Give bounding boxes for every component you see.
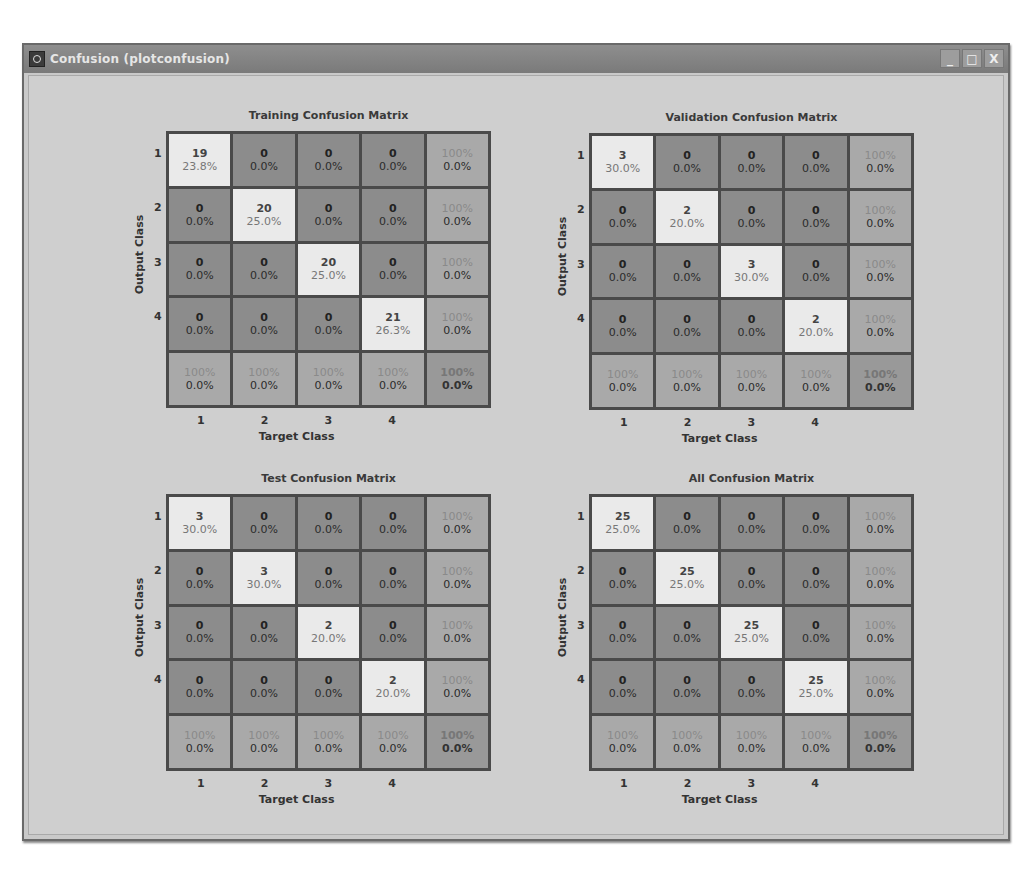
cell-percent: 0.0% xyxy=(186,379,214,392)
cell-percent: 0.0% xyxy=(379,578,407,591)
cell-count: 0 xyxy=(389,147,397,160)
matrix-cell: 00.0% xyxy=(785,497,846,549)
cell-count: 0 xyxy=(812,258,820,271)
matrix-cell: 00.0% xyxy=(298,661,359,713)
minimize-button[interactable]: _ xyxy=(940,49,960,68)
summary-cell: 100%0.0% xyxy=(427,607,488,659)
cell-count: 0 xyxy=(325,510,333,523)
cell-count: 2 xyxy=(812,313,820,326)
cell-percent: 0.0% xyxy=(186,324,214,337)
matrix-cell: 00.0% xyxy=(169,552,230,604)
matrix-cell: 00.0% xyxy=(656,607,717,659)
cell-percent: 0.0% xyxy=(250,523,278,536)
cell-percent: 0.0% xyxy=(186,742,214,755)
cell-percent: 0.0% xyxy=(609,687,637,700)
matlab-figure-icon xyxy=(29,51,45,67)
output-class-tick: 1 xyxy=(154,147,162,160)
cell-percent: 0.0% xyxy=(186,687,214,700)
cell-percent: 0.0% xyxy=(442,742,473,755)
cell-count: 3 xyxy=(196,510,204,523)
cell-percent: 0.0% xyxy=(738,381,766,394)
correct-cell: 2025.0% xyxy=(298,244,359,296)
correct-cell: 2126.3% xyxy=(362,298,423,350)
maximize-button[interactable]: □ xyxy=(962,49,982,68)
overall-accuracy-cell: 100%0.0% xyxy=(427,353,488,405)
summary-cell: 100%0.0% xyxy=(427,298,488,350)
cell-percent: 0.0% xyxy=(315,160,343,173)
summary-cell: 100%0.0% xyxy=(362,353,423,405)
cell-count: 100% xyxy=(248,366,279,379)
cell-percent: 0.0% xyxy=(379,742,407,755)
cell-count: 100% xyxy=(440,366,474,379)
cell-percent: 0.0% xyxy=(866,523,894,536)
figure-area: Training Confusion Matrix1923.8%00.0%00.… xyxy=(28,75,1004,835)
matrix-cell: 00.0% xyxy=(592,552,653,604)
output-class-tick: 2 xyxy=(577,564,585,577)
window-controls: _ □ X xyxy=(940,49,1004,68)
cell-count: 0 xyxy=(748,510,756,523)
cell-percent: 30.0% xyxy=(605,162,640,175)
correct-cell: 330.0% xyxy=(169,497,230,549)
cell-count: 25 xyxy=(808,674,823,687)
cell-count: 100% xyxy=(865,258,896,271)
correct-cell: 2525.0% xyxy=(592,497,653,549)
target-class-tick: 2 xyxy=(684,777,692,790)
summary-cell: 100%0.0% xyxy=(850,497,911,549)
cell-count: 0 xyxy=(325,147,333,160)
correct-cell: 220.0% xyxy=(656,191,717,243)
matrix-cell: 00.0% xyxy=(169,244,230,296)
y-axis-label: Output Class xyxy=(556,211,569,301)
cell-percent: 0.0% xyxy=(379,632,407,645)
matrix-cell: 00.0% xyxy=(785,246,846,298)
cell-count: 0 xyxy=(683,313,691,326)
cell-percent: 25.0% xyxy=(798,687,833,700)
cell-percent: 0.0% xyxy=(866,326,894,339)
summary-cell: 100%0.0% xyxy=(427,244,488,296)
matrix-cell: 00.0% xyxy=(721,552,782,604)
overall-accuracy-cell: 100%0.0% xyxy=(427,716,488,768)
correct-cell: 2525.0% xyxy=(721,607,782,659)
cell-percent: 0.0% xyxy=(315,215,343,228)
cell-percent: 0.0% xyxy=(609,742,637,755)
matrix-grid: 1923.8%00.0%00.0%00.0%100%0.0%00.0%2025.… xyxy=(166,131,491,408)
cell-count: 100% xyxy=(440,729,474,742)
summary-cell: 100%0.0% xyxy=(785,355,846,407)
target-class-tick: 3 xyxy=(325,414,333,427)
cell-percent: 0.0% xyxy=(186,632,214,645)
cell-count: 100% xyxy=(865,204,896,217)
cell-count: 100% xyxy=(442,619,473,632)
cell-count: 100% xyxy=(377,729,408,742)
cell-count: 100% xyxy=(184,729,215,742)
cell-percent: 0.0% xyxy=(379,379,407,392)
target-class-tick: 3 xyxy=(325,777,333,790)
cell-percent: 20.0% xyxy=(670,217,705,230)
correct-cell: 220.0% xyxy=(785,300,846,352)
cell-count: 0 xyxy=(619,674,627,687)
cell-percent: 0.0% xyxy=(443,160,471,173)
close-button[interactable]: X xyxy=(984,49,1004,68)
cell-percent: 0.0% xyxy=(738,523,766,536)
cell-count: 0 xyxy=(389,565,397,578)
title-bar[interactable]: Confusion (plotconfusion) _ □ X xyxy=(24,45,1008,73)
matrix-cell: 00.0% xyxy=(721,191,782,243)
output-class-tick: 3 xyxy=(577,258,585,271)
output-class-tick: 2 xyxy=(577,203,585,216)
cell-count: 0 xyxy=(389,202,397,215)
matrix-grid: 330.0%00.0%00.0%00.0%100%0.0%00.0%220.0%… xyxy=(589,133,914,410)
cell-count: 0 xyxy=(389,510,397,523)
cell-count: 0 xyxy=(812,510,820,523)
summary-cell: 100%0.0% xyxy=(169,716,230,768)
cell-percent: 0.0% xyxy=(315,523,343,536)
cell-percent: 0.0% xyxy=(443,578,471,591)
cell-percent: 0.0% xyxy=(866,578,894,591)
cell-percent: 30.0% xyxy=(247,578,282,591)
cell-percent: 0.0% xyxy=(250,160,278,173)
cell-count: 0 xyxy=(683,674,691,687)
summary-cell: 100%0.0% xyxy=(721,716,782,768)
summary-cell: 100%0.0% xyxy=(850,246,911,298)
cell-count: 25 xyxy=(679,565,694,578)
cell-count: 25 xyxy=(744,619,759,632)
cell-percent: 0.0% xyxy=(738,687,766,700)
cell-count: 0 xyxy=(325,311,333,324)
cell-count: 0 xyxy=(260,674,268,687)
